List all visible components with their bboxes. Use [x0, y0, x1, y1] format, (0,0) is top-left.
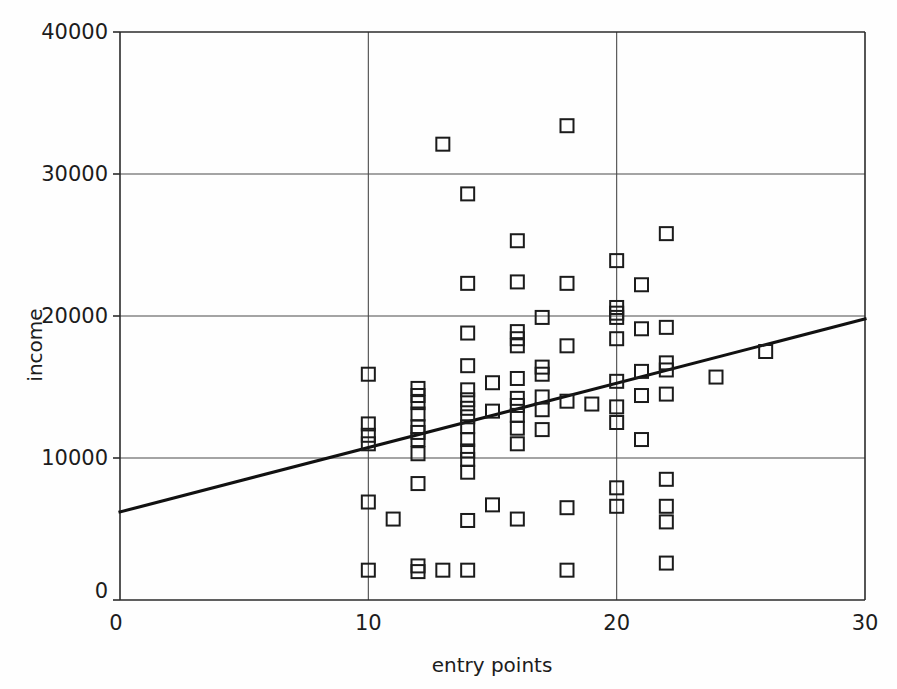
data-point-marker [660, 473, 673, 486]
data-point-marker [635, 433, 648, 446]
data-point-marker [660, 321, 673, 334]
data-point-marker [511, 234, 524, 247]
y-axis-title: income [23, 308, 47, 381]
data-point-marker [461, 187, 474, 200]
data-point-marker [461, 359, 474, 372]
data-point-marker [461, 466, 474, 479]
data-point-markers [362, 119, 772, 578]
data-point-marker [511, 437, 524, 450]
plot-canvas: 010000200003000040000 0102030 income ent… [0, 0, 897, 689]
data-point-marker [412, 477, 425, 490]
data-point-marker [585, 398, 598, 411]
x-axis-tick-labels: 0102030 [109, 611, 878, 635]
data-point-marker [710, 371, 723, 384]
regression-line [120, 319, 865, 512]
data-point-marker [660, 500, 673, 513]
data-point-marker [561, 277, 574, 290]
data-point-marker [536, 311, 549, 324]
data-point-marker [461, 402, 474, 415]
regression-line-segment [120, 319, 865, 512]
data-point-marker [461, 383, 474, 396]
data-point-marker [511, 372, 524, 385]
x-axis-title: entry points [432, 653, 553, 677]
data-point-marker [660, 557, 673, 570]
x-tick-label: 30 [852, 611, 879, 635]
x-tick-label: 10 [355, 611, 382, 635]
data-point-marker [635, 322, 648, 335]
data-point-marker [635, 389, 648, 402]
data-point-marker [536, 423, 549, 436]
data-point-marker [635, 278, 648, 291]
y-tick-label: 10000 [41, 446, 108, 470]
y-tick-label: 40000 [41, 20, 108, 44]
data-point-marker [486, 498, 499, 511]
data-point-marker [511, 422, 524, 435]
y-tick-label: 0 [95, 579, 108, 603]
data-point-marker [436, 564, 449, 577]
data-point-marker [461, 453, 474, 466]
data-point-marker [511, 275, 524, 288]
y-axis-tick-labels: 010000200003000040000 [41, 20, 120, 603]
gridlines [120, 32, 865, 600]
y-tick-label: 30000 [41, 162, 108, 186]
data-point-marker [461, 393, 474, 406]
x-tick-label: 0 [109, 611, 122, 635]
data-point-marker [486, 376, 499, 389]
data-point-marker [660, 227, 673, 240]
data-point-marker [461, 277, 474, 290]
scatter-plot-figure: 010000200003000040000 0102030 income ent… [0, 0, 897, 689]
data-point-marker [561, 339, 574, 352]
data-point-marker [461, 514, 474, 527]
data-point-marker [436, 138, 449, 151]
x-tick-label: 20 [603, 611, 630, 635]
data-point-marker [387, 513, 400, 526]
data-point-marker [461, 564, 474, 577]
data-point-marker [461, 327, 474, 340]
y-tick-label: 20000 [41, 304, 108, 328]
data-point-marker [660, 515, 673, 528]
data-point-marker [511, 513, 524, 526]
data-point-marker [561, 119, 574, 132]
data-point-marker [561, 501, 574, 514]
data-point-marker [660, 388, 673, 401]
data-point-marker [561, 564, 574, 577]
